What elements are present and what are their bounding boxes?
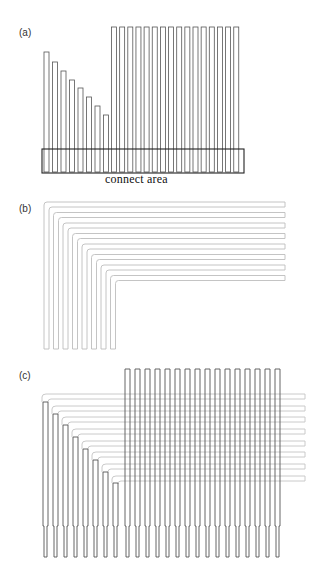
tall-pad: [205, 369, 210, 557]
routing-diagram: [0, 0, 323, 573]
tall-pad: [160, 27, 165, 172]
l-trace-outer: [73, 234, 286, 350]
l-trace-inner: [116, 281, 286, 350]
l-trace-outer: [101, 265, 285, 349]
l-trace-inner: [59, 218, 286, 350]
panel-label-c: (c): [19, 370, 31, 381]
tall-pad: [275, 369, 280, 557]
tall-pad: [195, 369, 200, 557]
tall-pad: [145, 369, 150, 557]
route-trace: [42, 394, 305, 402]
stair-pad: [78, 88, 83, 172]
stair-pad: [63, 425, 68, 557]
stair-pad: [104, 115, 109, 172]
tall-pad: [155, 369, 160, 557]
route-trace: [52, 406, 305, 414]
tall-pad: [201, 27, 206, 172]
tall-pad: [120, 27, 125, 172]
panel-b-drawing: [44, 202, 285, 349]
tall-pad: [215, 369, 220, 557]
tall-pad: [245, 369, 250, 557]
tall-pad: [169, 27, 174, 172]
connect-area-box: [42, 149, 244, 173]
stair-pad: [113, 483, 118, 557]
l-trace-inner: [78, 239, 286, 350]
tall-pad: [152, 27, 157, 172]
tall-pad: [225, 369, 230, 557]
stair-pad: [70, 80, 75, 172]
tall-pad: [136, 27, 141, 172]
tall-pad: [177, 27, 182, 172]
l-trace-inner: [87, 249, 285, 349]
route-trace: [112, 476, 305, 484]
l-trace-outer: [92, 255, 286, 350]
tall-pad: [135, 369, 140, 557]
panel-a-drawing: [42, 27, 244, 173]
tall-pad: [234, 27, 239, 172]
route-trace: [82, 441, 305, 449]
tall-pad: [226, 27, 231, 172]
tall-pad: [128, 27, 133, 172]
stair-pad: [53, 62, 58, 172]
tall-pad: [112, 27, 117, 172]
stair-pad: [73, 437, 78, 557]
tall-pad: [265, 369, 270, 557]
stair-pad: [87, 97, 92, 172]
tall-pad: [193, 27, 198, 172]
stair-pad: [103, 472, 108, 557]
stair-pad: [44, 52, 49, 172]
tall-pad: [235, 369, 240, 557]
route-trace: [92, 452, 305, 460]
panel-label-b: (b): [19, 203, 31, 214]
route-trace: [62, 417, 305, 425]
stair-pad: [43, 402, 48, 557]
tall-pad: [175, 369, 180, 557]
tall-pad: [165, 369, 170, 557]
tall-pad: [144, 27, 149, 172]
panel-label-a: (a): [19, 27, 31, 38]
tall-pad: [185, 27, 190, 172]
stair-pad: [61, 71, 66, 172]
panel-c-drawing: [42, 369, 305, 557]
stair-pad: [53, 414, 58, 557]
tall-pad: [217, 27, 222, 172]
tall-pad: [185, 369, 190, 557]
tall-pad: [255, 369, 260, 557]
connect-area-caption: connect area: [105, 172, 168, 187]
stair-pad: [95, 106, 100, 172]
l-trace-outer: [111, 276, 286, 350]
tall-pad: [125, 369, 130, 557]
stair-pad: [83, 449, 88, 557]
tall-pad: [209, 27, 214, 172]
l-trace-inner: [106, 270, 285, 349]
l-trace-inner: [97, 260, 286, 350]
stair-pad: [93, 460, 98, 557]
